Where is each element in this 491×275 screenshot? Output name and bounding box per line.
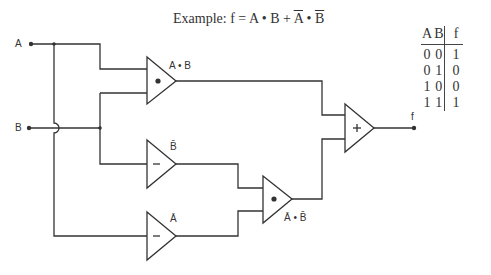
header-f: f <box>445 26 464 45</box>
input-b-terminal <box>27 126 31 130</box>
wire-not-b-to-and2 <box>176 164 263 188</box>
wire-and1-to-or <box>176 81 345 115</box>
cell-a: 0 <box>421 45 433 64</box>
and1-output-label: A • B <box>169 60 191 71</box>
truth-table: A B f 0 0 1 0 1 0 1 0 0 1 1 1 <box>421 26 463 111</box>
cell-a: 1 <box>421 79 433 95</box>
cell-b: 1 <box>433 63 445 79</box>
input-a-label: A <box>15 38 22 49</box>
and-symbol-icon <box>271 196 276 201</box>
input-b-label: B <box>15 122 22 133</box>
wire-b-to-not-b <box>100 93 147 164</box>
junction-a <box>52 42 56 46</box>
wire-a-to-and1 <box>31 44 147 69</box>
header-a: A <box>421 26 433 45</box>
cell-b: 1 <box>433 95 445 111</box>
cell-f: 1 <box>445 45 464 64</box>
cell-f: 0 <box>445 79 464 95</box>
output-f-label: f <box>411 111 414 122</box>
output-f-terminal <box>412 126 416 130</box>
cell-f: 0 <box>445 63 464 79</box>
cell-a: 1 <box>421 95 433 111</box>
wire-not-a-to-and2 <box>176 211 263 236</box>
logic-circuit <box>0 0 491 275</box>
cell-a: 0 <box>421 63 433 79</box>
junction-b <box>98 126 102 130</box>
cell-b: 0 <box>433 79 445 95</box>
cell-f: 1 <box>445 95 464 111</box>
truth-table-row: 0 1 0 <box>421 63 463 79</box>
and-symbol-icon <box>155 78 160 83</box>
wire-and2-to-or <box>292 139 345 199</box>
truth-table-row: 1 1 1 <box>421 95 463 111</box>
and2-output-label: Ā • B̄ <box>284 212 306 223</box>
cell-b: 0 <box>433 45 445 64</box>
not-b-output-label: B̄ <box>170 141 177 152</box>
input-a-terminal <box>29 42 33 46</box>
truth-table-header: A B f <box>421 26 463 45</box>
header-b: B <box>433 26 445 45</box>
truth-table-row: 0 0 1 <box>421 45 463 64</box>
truth-table-row: 1 0 0 <box>421 79 463 95</box>
not-a-output-label: Ā <box>170 213 177 224</box>
